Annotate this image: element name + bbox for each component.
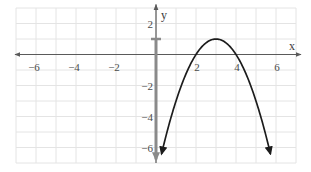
y-axis-label: y <box>161 8 167 22</box>
x-tick-label: −2 <box>108 61 120 73</box>
axes <box>15 5 301 164</box>
coordinate-graph: xy−6−4−22462−2−4−6 <box>0 0 311 172</box>
y-tick-label: −4 <box>141 111 153 123</box>
y-tick-label: −2 <box>141 80 153 92</box>
x-tick-label: 6 <box>274 61 280 73</box>
y-tick-label: −6 <box>141 142 153 154</box>
x-tick-label: −4 <box>68 61 80 73</box>
x-tick-label: −6 <box>28 61 40 73</box>
x-tick-label: 2 <box>194 61 200 73</box>
y-tick-label: 2 <box>148 18 154 30</box>
x-tick-label: 4 <box>234 61 240 73</box>
x-axis-label: x <box>289 39 295 53</box>
